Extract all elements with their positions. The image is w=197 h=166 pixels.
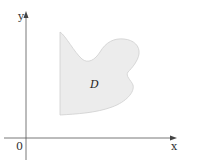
region-label: D bbox=[89, 78, 99, 91]
origin-label: 0 bbox=[16, 140, 23, 153]
y-axis-arrow-icon bbox=[24, 11, 29, 18]
region-d bbox=[60, 32, 139, 115]
diagram-canvas: D y x 0 bbox=[0, 0, 197, 166]
y-axis-label: y bbox=[17, 10, 25, 23]
x-axis-label: x bbox=[171, 140, 178, 153]
